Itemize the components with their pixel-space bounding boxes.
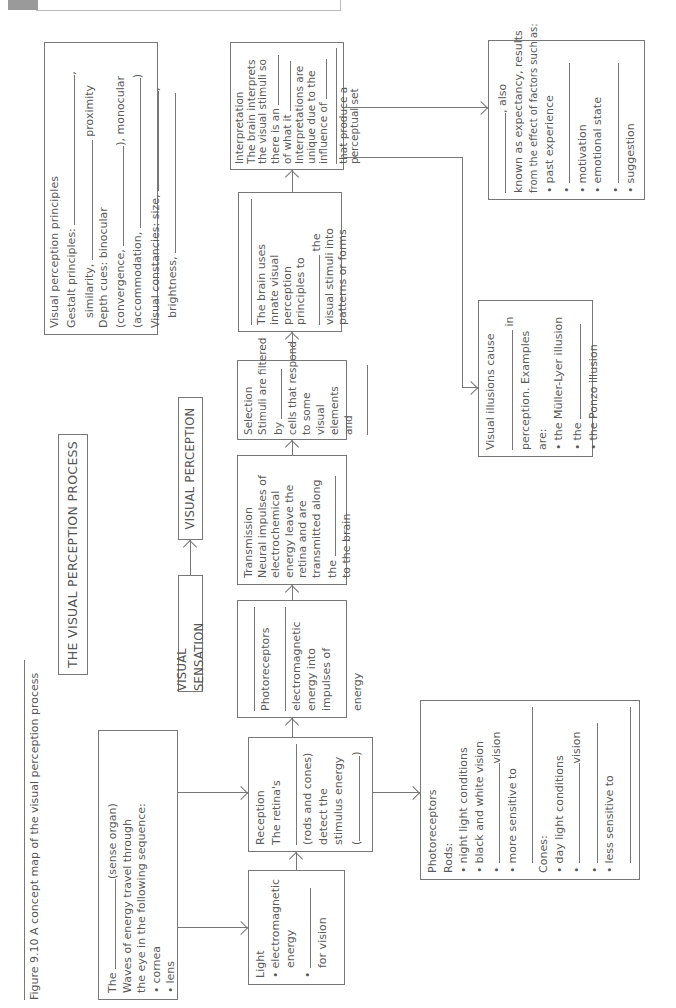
- factor-motivation: motivation: [575, 47, 591, 193]
- arrow-reception-transduction: [285, 718, 299, 732]
- arrow-to-perceptual-set: [474, 101, 488, 115]
- interpretation-line4: of what it: [281, 114, 293, 164]
- title-text: THE VISUAL PERCEPTION PROCESS: [65, 441, 82, 668]
- rods-vision-blank[interactable]: [487, 764, 500, 864]
- organisation-line7: patterns or forms: [336, 199, 349, 325]
- arrow-organisation-interpretation: [285, 170, 299, 184]
- illusions-line1: Visual illusions cause: [483, 307, 500, 450]
- constancy-blank-2[interactable]: [163, 93, 176, 253]
- illusions-blank-2[interactable]: [568, 324, 581, 419]
- constancy-blank-1[interactable]: [146, 91, 159, 191]
- rods-label: Rods:: [441, 707, 457, 873]
- light-blank[interactable]: [298, 889, 311, 969]
- illusion-item-the: the: [571, 422, 584, 440]
- transmission-line4: retina and are: [296, 462, 310, 578]
- transduction-line2: electromagnetic: [289, 607, 304, 711]
- transmission-blank[interactable]: [323, 476, 336, 556]
- transduction-blank-3[interactable]: [334, 607, 347, 711]
- factor-suggestion: suggestion: [623, 47, 639, 193]
- light-item1: electromagnetic: [268, 877, 283, 978]
- illusions-blank-1[interactable]: [500, 330, 513, 450]
- interpretation-blank-4[interactable]: [330, 48, 337, 164]
- principles-line1: Gestalt principles:: [65, 228, 78, 328]
- rods-item-bw: black and white vision: [472, 707, 488, 873]
- light-item1b: energy: [283, 877, 298, 978]
- organisation-line3: perception: [281, 199, 294, 325]
- interpretation-line5: Interpretations are: [294, 48, 306, 164]
- interpretation-line6: unique due to the: [306, 48, 318, 164]
- sense-organ-blank[interactable]: [103, 879, 116, 969]
- principles-line2-pre: similarity,: [83, 264, 96, 318]
- arrow-light-reception: [289, 852, 303, 866]
- eye-line1-post: (sense organ): [106, 803, 119, 879]
- gestalt-blank-2[interactable]: [80, 140, 93, 260]
- arrow-transmission-selection: [285, 440, 299, 454]
- reception-paren-open: (: [350, 841, 363, 845]
- transduction-blank-1[interactable]: [242, 607, 255, 711]
- selection-line5: elements and: [327, 365, 355, 435]
- cones-label: Cones:: [536, 707, 552, 873]
- factor-emotional-state: emotional state: [590, 47, 606, 193]
- concept-map-canvas: Figure 9.10 A concept map of the visual …: [0, 0, 676, 1008]
- cones-extra-blank[interactable]: [585, 724, 598, 864]
- gestalt-blank-1[interactable]: [62, 75, 75, 225]
- perceptual-set-blank[interactable]: [493, 113, 506, 193]
- transduction-blank-2[interactable]: [273, 607, 286, 711]
- perception-principles-box: Visual perception principles Gestalt pri…: [44, 42, 158, 335]
- visual-illusions-box: Visual illusions cause in perception. Ex…: [478, 300, 593, 457]
- perceptual-set-line3: from the effect of factors such as:: [526, 47, 542, 193]
- transmission-line5: transmitted along: [310, 462, 324, 578]
- cones-vision-blank[interactable]: [567, 764, 580, 864]
- organisation-blank-1[interactable]: [243, 199, 252, 325]
- transmission-line3: energy leave the: [283, 462, 297, 578]
- figure-caption: Figure 9.10 A concept map of the visual …: [28, 673, 41, 1000]
- organisation-line1: The brain uses: [255, 199, 268, 325]
- arrow-transduction-transmission: [285, 585, 299, 599]
- rods-vision-label: vision: [490, 731, 503, 763]
- factor-blank-2[interactable]: [606, 64, 619, 184]
- organisation-line2: innate visual: [268, 199, 281, 325]
- cones-sensitive-blank[interactable]: [618, 707, 631, 863]
- interpretation-line2: the visual stimuli so: [257, 48, 269, 164]
- selection-blank-1[interactable]: [269, 369, 282, 419]
- rods-cones-heading: Photoreceptors: [425, 707, 441, 873]
- selection-line3: cells that respond: [285, 365, 299, 435]
- cones-sensitive: less sensitive to: [602, 707, 618, 873]
- interpretation-line3: there is an: [269, 108, 281, 164]
- reception-blank-1[interactable]: [284, 744, 297, 845]
- eye-item-lens: lens: [164, 737, 179, 993]
- arrow-to-illusions: [464, 381, 478, 395]
- interpretation-blank-1[interactable]: [269, 55, 279, 105]
- illusions-line2-post: in: [503, 316, 516, 326]
- organisation-blank-2[interactable]: [307, 255, 320, 325]
- perceptual-set-box: , also known as expectancy, results from…: [488, 40, 645, 200]
- illusion-item-muller-lyer: the Müller-Lyer illusion: [551, 307, 568, 450]
- binocular-blank[interactable]: [111, 146, 124, 246]
- interpretation-blank-2[interactable]: [281, 61, 291, 111]
- interpretation-box: Interpretation The brain interprets the …: [230, 42, 344, 170]
- principles-line5-pre: (accommodation,: [131, 232, 144, 328]
- rods-sensitive-blank[interactable]: [520, 707, 533, 863]
- visual-sensation-box: VISUAL SENSATION: [178, 575, 203, 692]
- perceptual-set-line1: , also: [496, 84, 509, 113]
- interpretation-line7: influence of: [317, 102, 329, 164]
- rods-item-night: night light conditions: [456, 707, 472, 873]
- arrow-sensation-perception: [183, 540, 197, 554]
- principles-line6: Visual constancies: size,: [149, 195, 162, 328]
- photoreceptors-transduction-box: Photoreceptors electromagnetic energy in…: [237, 600, 347, 718]
- transduction-line5: energy: [350, 607, 365, 711]
- principles-line4-post: ), monocular: [114, 76, 127, 146]
- principles-line5-post: ): [131, 74, 144, 78]
- title-box: THE VISUAL PERCEPTION PROCESS: [58, 434, 88, 675]
- cones-vision-label: vision: [570, 731, 583, 763]
- reception-blank-2[interactable]: [347, 756, 360, 841]
- factor-blank-1[interactable]: [557, 64, 570, 184]
- monocular-blank[interactable]: [128, 78, 141, 228]
- arrow-reception-rods: [406, 786, 420, 800]
- interpretation-blank-3[interactable]: [317, 59, 327, 99]
- organisation-line6: visual stimuli into: [323, 199, 336, 325]
- rods-sensitive: more sensitive to: [505, 707, 521, 873]
- selection-blank-2[interactable]: [355, 365, 368, 435]
- connector-interp-illusions-h: [462, 157, 463, 388]
- light-box: Light electromagnetic energy for vision: [248, 870, 345, 985]
